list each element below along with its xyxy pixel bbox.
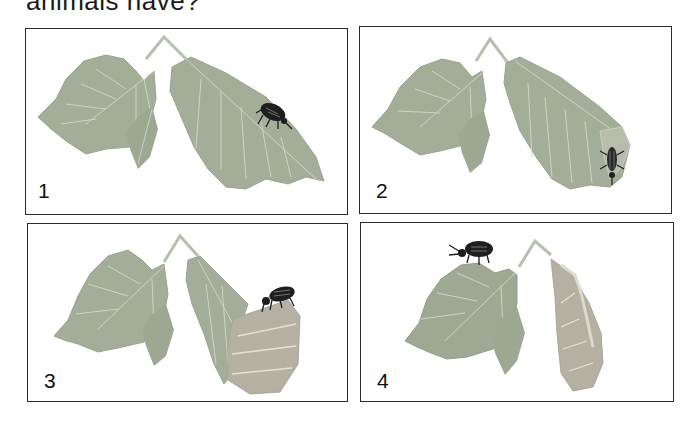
leaf-illustration-1	[26, 29, 348, 215]
panel-2: 2	[359, 26, 672, 214]
question-heading: animals have?	[26, 0, 200, 17]
panel-number-1: 1	[38, 179, 50, 203]
panel-number-4: 4	[377, 369, 389, 393]
leaf-illustration-2	[360, 27, 672, 214]
panel-number-3: 3	[44, 369, 56, 393]
leaf-illustration-3	[28, 224, 348, 402]
panel-1: 1	[25, 28, 348, 215]
panel-number-2: 2	[376, 179, 388, 203]
beetle-icon	[449, 241, 493, 265]
panel-3: 3	[27, 223, 348, 402]
leaf-illustration-4	[361, 223, 674, 402]
panel-4: 4	[360, 222, 674, 402]
